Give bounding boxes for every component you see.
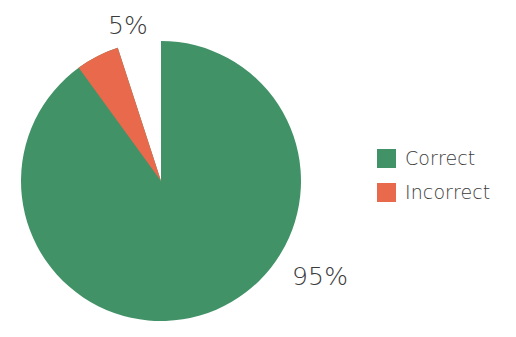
legend-label-incorrect: Incorrect <box>405 183 490 202</box>
pie-chart-figure: 5% 95% Correct Incorrect <box>0 0 516 337</box>
legend-item-correct[interactable]: Correct <box>377 148 490 168</box>
pie-slice-correct[interactable] <box>21 41 301 321</box>
legend-item-incorrect[interactable]: Incorrect <box>377 182 490 202</box>
legend-label-correct: Correct <box>405 149 475 168</box>
legend-swatch-correct-icon <box>377 149 396 168</box>
pie-chart-svg <box>0 0 330 337</box>
pie-data-label-incorrect: 5% <box>108 13 148 38</box>
pie-data-label-correct: 95% <box>292 264 348 289</box>
pie-chart-plot-area <box>0 0 330 337</box>
legend-swatch-incorrect-icon <box>377 183 396 202</box>
chart-legend: Correct Incorrect <box>377 148 490 202</box>
